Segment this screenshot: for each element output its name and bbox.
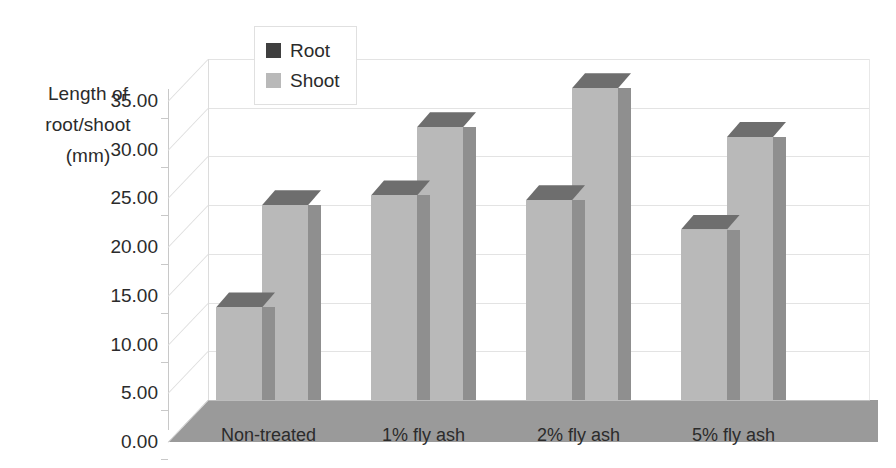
bar-side (463, 127, 476, 400)
bar-side (773, 137, 786, 400)
bar-face (681, 230, 727, 401)
bar-top (572, 73, 631, 88)
bar-root[interactable] (371, 195, 417, 400)
legend-swatch (266, 43, 281, 58)
bar-chart: Length of root/shoot (mm) 0.005.0010.001… (0, 0, 896, 468)
x-axis-category-label: 5% fly ash (655, 424, 812, 446)
bar-side (572, 200, 585, 400)
y-axis-tickmark (161, 264, 168, 265)
y-axis-tickmark (161, 167, 168, 168)
bar-group (371, 59, 476, 400)
y-axis-tick-label: 10.00 (66, 335, 158, 354)
bar-top (417, 112, 476, 127)
bar-face (526, 200, 572, 400)
bar-top (262, 190, 321, 205)
y-axis-tick-labels: 0.005.0010.0015.0020.0025.0030.0035.00 (66, 0, 158, 468)
y-axis-tick-label: 30.00 (66, 140, 158, 159)
x-axis-category-label: Non-treated (190, 424, 347, 446)
bar-side (262, 307, 275, 400)
legend-swatch (266, 73, 281, 88)
bar-group (526, 59, 631, 400)
bar-side (308, 205, 321, 400)
y-axis-tick-label: 5.00 (66, 383, 158, 402)
legend-label: Shoot (290, 71, 340, 90)
y-axis-tick-label: 25.00 (66, 188, 158, 207)
y-axis-tick-label: 0.00 (66, 432, 158, 451)
bar-root[interactable] (526, 200, 572, 400)
y-axis-tickmark (161, 362, 168, 363)
legend: RootShoot (254, 26, 357, 105)
y-axis-tickmark (161, 459, 168, 460)
legend-item-shoot[interactable]: Shoot (266, 65, 340, 95)
bar-side (618, 88, 631, 400)
bar-group (681, 59, 786, 400)
bar-side (417, 195, 430, 400)
y-axis-tick-label: 15.00 (66, 286, 158, 305)
x-axis-category-label: 2% fly ash (500, 424, 657, 446)
legend-label: Root (290, 41, 330, 60)
y-axis-tickmark (161, 118, 168, 119)
legend-item-root[interactable]: Root (266, 35, 340, 65)
bar-root[interactable] (681, 230, 727, 401)
y-axis-tickmark (161, 410, 168, 411)
bar-face (371, 195, 417, 400)
bar-face (216, 307, 262, 400)
bar-group (216, 59, 321, 400)
y-axis-tickmark (161, 215, 168, 216)
bar-root[interactable] (216, 307, 262, 400)
x-axis-category-label: 1% fly ash (345, 424, 502, 446)
x-axis-category-labels: Non-treated1% fly ash2% fly ash5% fly as… (168, 424, 878, 456)
bar-side (727, 230, 740, 401)
y-axis-tick-label: 20.00 (66, 237, 158, 256)
y-axis-tickmark (161, 313, 168, 314)
bar-top (727, 122, 786, 137)
y-axis-tick-label: 35.00 (66, 91, 158, 110)
